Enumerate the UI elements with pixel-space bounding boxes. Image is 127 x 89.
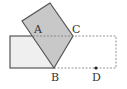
geometry-diagram: A C B D (0, 0, 127, 89)
label-d: D (92, 71, 101, 84)
label-b: B (51, 71, 59, 84)
point-d (94, 66, 97, 69)
label-a: A (33, 23, 43, 36)
label-c: C (72, 23, 80, 36)
